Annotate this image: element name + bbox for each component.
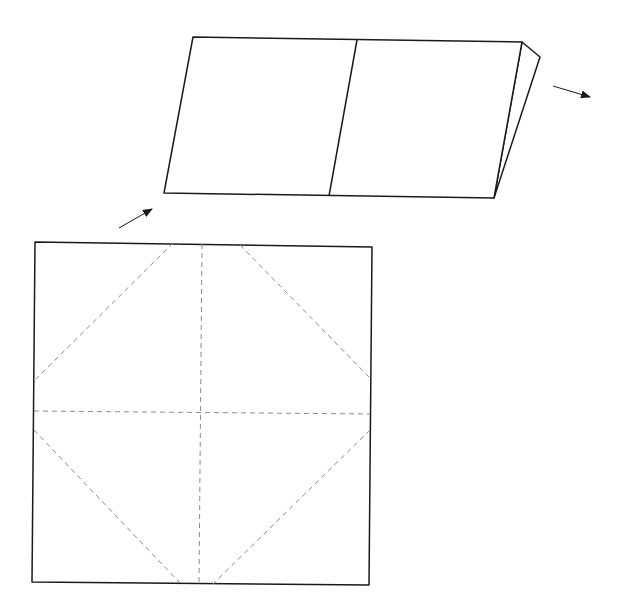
square-sheet [32,242,372,585]
arrow-square-to-folded-icon [119,209,152,228]
arrow-next-step-icon [553,86,590,97]
folded-sheet [164,37,540,198]
diagram-canvas [0,0,625,612]
origami-diagram [0,0,625,612]
